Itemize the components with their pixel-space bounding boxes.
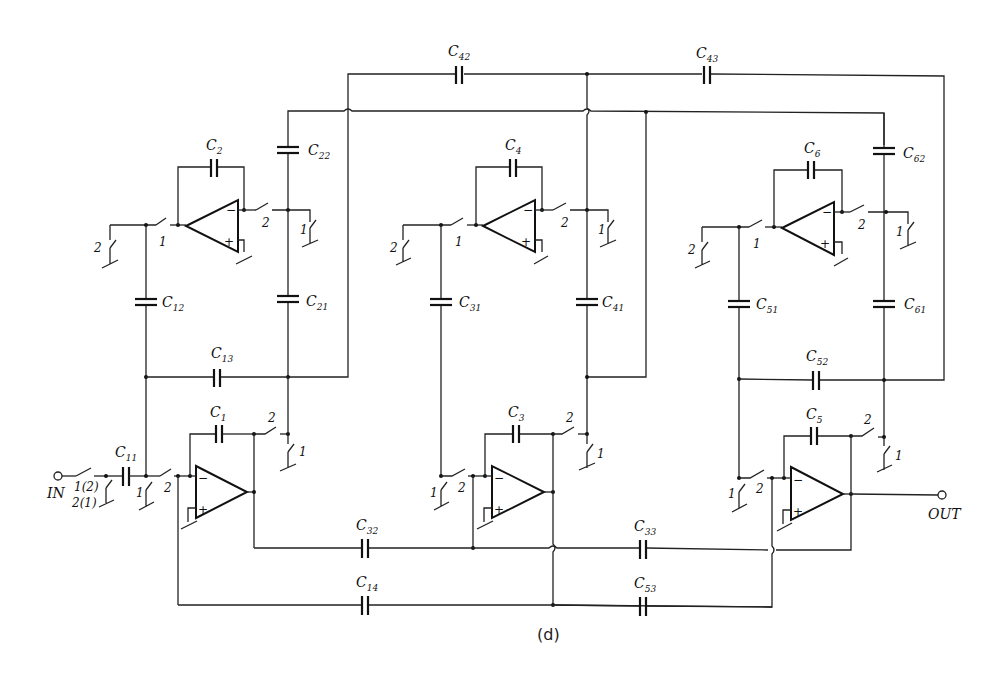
- column-c62-c61: [873, 113, 895, 437]
- opamp-sign-labels: − + − + − + − + − + − +: [198, 203, 832, 519]
- svg-text:−: −: [523, 203, 533, 217]
- figure-caption: (d): [537, 625, 560, 644]
- svg-text:C14: C14: [356, 574, 378, 593]
- capacitor-c1: [216, 425, 222, 443]
- column-c31: [430, 225, 452, 476]
- row-c13: [146, 369, 288, 387]
- svg-text:2(1): 2(1): [71, 496, 97, 510]
- row-c52: [739, 371, 884, 390]
- svg-text:1: 1: [598, 223, 606, 237]
- stage-c6-integrator: [695, 161, 916, 268]
- svg-text:+: +: [198, 503, 208, 517]
- capacitor-c31: [430, 299, 452, 305]
- svg-text:1: 1: [299, 445, 307, 459]
- svg-text:1: 1: [136, 486, 144, 500]
- svg-text:C42: C42: [448, 43, 470, 62]
- capacitor-c33: [640, 540, 646, 559]
- svg-text:C22: C22: [308, 142, 330, 161]
- capacitor-c53: [640, 597, 646, 616]
- svg-text:2: 2: [755, 482, 764, 496]
- svg-text:2: 2: [857, 218, 866, 232]
- svg-text:2: 2: [457, 481, 466, 495]
- svg-text:C5: C5: [806, 406, 823, 425]
- capacitor-c62: [873, 148, 895, 154]
- svg-text:2: 2: [163, 481, 172, 495]
- svg-text:2: 2: [93, 241, 102, 255]
- svg-text:1: 1: [159, 235, 167, 249]
- svg-text:C4: C4: [505, 137, 522, 156]
- capacitor-c13: [214, 369, 220, 387]
- capacitor-labels: C42 C43 C2 C22 C12 C21 C13 C4 C31 C41 C6…: [115, 43, 926, 594]
- svg-text:C3: C3: [508, 404, 525, 423]
- bus-c14-c53: [178, 596, 772, 616]
- capacitor-c42: [456, 66, 462, 84]
- svg-text:2: 2: [863, 413, 872, 427]
- svg-text:C1: C1: [210, 404, 226, 423]
- svg-text:1: 1: [430, 486, 438, 500]
- svg-text:1: 1: [753, 237, 761, 251]
- svg-text:C2: C2: [206, 137, 223, 156]
- svg-text:1(2): 1(2): [74, 480, 99, 494]
- svg-text:2: 2: [267, 411, 276, 425]
- stage-c2-integrator: [102, 159, 318, 268]
- second-feedback-bus: [288, 109, 884, 377]
- svg-text:+: +: [224, 235, 234, 249]
- output-terminal[interactable]: [938, 491, 946, 499]
- svg-text:+: +: [521, 235, 531, 249]
- svg-text:C31: C31: [459, 294, 481, 313]
- svg-text:−: −: [226, 203, 236, 217]
- svg-text:−: −: [793, 473, 803, 487]
- svg-text:2: 2: [687, 243, 696, 257]
- svg-text:−: −: [822, 205, 832, 219]
- stage-c3-integrator: [434, 425, 595, 607]
- capacitor-c41: [576, 299, 598, 305]
- svg-text:C33: C33: [634, 518, 656, 537]
- input-terminal[interactable]: [54, 472, 62, 480]
- capacitor-c4: [510, 159, 516, 177]
- svg-text:1: 1: [895, 449, 903, 463]
- column-c51: [728, 227, 750, 478]
- capacitor-c61: [873, 301, 895, 307]
- capacitor-c12: [135, 299, 157, 305]
- svg-text:C21: C21: [306, 293, 328, 312]
- svg-text:C11: C11: [115, 444, 137, 463]
- svg-text:C13: C13: [211, 345, 233, 364]
- svg-text:C32: C32: [356, 517, 378, 536]
- capacitor-c43: [704, 66, 710, 84]
- capacitor-c14: [362, 596, 368, 615]
- capacitor-c2: [211, 159, 217, 177]
- column-c41: [576, 210, 598, 434]
- svg-text:C61: C61: [904, 296, 926, 315]
- output-label: OUT: [928, 506, 962, 522]
- svg-text:2: 2: [389, 241, 398, 255]
- svg-text:C41: C41: [602, 294, 624, 313]
- svg-text:1: 1: [597, 447, 605, 461]
- svg-text:C51: C51: [756, 296, 778, 315]
- capacitor-c11: [123, 467, 129, 486]
- bus-c32-c33: [254, 539, 768, 559]
- capacitor-c21: [277, 296, 299, 302]
- svg-text:2: 2: [560, 216, 569, 230]
- input-label: IN: [46, 485, 66, 501]
- svg-text:1: 1: [896, 225, 904, 239]
- svg-text:1: 1: [455, 235, 463, 249]
- capacitor-c52: [813, 371, 819, 390]
- svg-text:+: +: [494, 503, 504, 517]
- svg-text:+: +: [793, 505, 803, 519]
- capacitor-c6: [808, 161, 814, 179]
- svg-text:C62: C62: [903, 145, 925, 164]
- svg-text:−: −: [198, 471, 208, 485]
- svg-text:1: 1: [300, 223, 308, 237]
- capacitor-c32: [362, 539, 368, 558]
- svg-text:C53: C53: [634, 575, 656, 594]
- capacitor-c22: [277, 147, 299, 153]
- svg-text:C43: C43: [696, 45, 718, 64]
- column-c22-c21: [277, 145, 299, 379]
- svg-text:+: +: [820, 237, 830, 251]
- circuit-schematic: − + − + − + − + − + − + 2 1 2 1 2 1 2 1 …: [0, 0, 1004, 684]
- svg-text:1: 1: [728, 487, 736, 501]
- svg-text:C12: C12: [162, 294, 184, 313]
- capacitor-c51: [728, 301, 750, 307]
- capacitor-c5: [811, 427, 817, 445]
- column-c12: [135, 225, 157, 475]
